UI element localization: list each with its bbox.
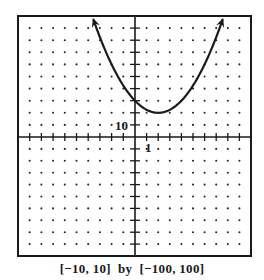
y-tick-label: 10 — [115, 119, 128, 132]
graph-canvas — [0, 0, 264, 260]
window-caption: [−10, 10] by [−100, 100] — [0, 261, 264, 277]
x-tick-label: 1 — [145, 141, 152, 154]
parabola-curve — [94, 20, 223, 113]
